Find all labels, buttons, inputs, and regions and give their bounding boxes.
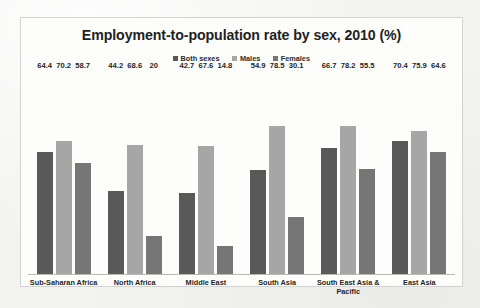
bar-males	[56, 141, 72, 274]
x-axis-label: South East Asia & Pacific	[313, 278, 383, 296]
bar-value-label: 55.5	[360, 61, 375, 70]
x-axis-label: North Africa	[100, 278, 170, 287]
bar-group: 42.7 67.6 14.8	[179, 72, 233, 274]
bar-value-label: 20	[150, 61, 158, 70]
bar-wrap: 70.4	[392, 72, 408, 274]
bar-males	[127, 145, 143, 275]
bar-males	[269, 126, 285, 274]
bar-wrap: 20	[146, 72, 162, 274]
bar-wrap: 30.1	[288, 72, 304, 274]
bar-wrap: 78.2	[340, 72, 356, 274]
bar-value-label: 75.9	[412, 61, 427, 70]
bar-males	[340, 126, 356, 274]
bar-value-label: 30.1	[289, 61, 304, 70]
bar-value-label: 68.6	[127, 61, 142, 70]
bar-value-label: 70.2	[56, 61, 71, 70]
bar-wrap: 58.7	[75, 72, 91, 274]
x-axis-labels: Sub-Saharan Africa North Africa Middle E…	[28, 278, 455, 296]
bar-wrap: 75.9	[411, 72, 427, 274]
bar-wrap: 14.8	[217, 72, 233, 274]
bar-females	[430, 152, 446, 274]
bar-wrap: 44.2	[108, 72, 124, 274]
bar-males	[198, 146, 214, 274]
chart-title: Employment-to-population rate by sex, 20…	[21, 27, 462, 43]
bar-wrap: 67.6	[198, 72, 214, 274]
bar-group: 70.4 75.9 64.6	[392, 72, 446, 274]
bar-wrap: 64.4	[37, 72, 53, 274]
bar-males	[411, 131, 427, 274]
x-axis-line	[28, 274, 455, 275]
bar-value-label: 70.4	[393, 61, 408, 70]
bar-value-label: 54.9	[251, 61, 266, 70]
bar-value-label: 78.5	[270, 61, 285, 70]
bar-wrap: 66.7	[321, 72, 337, 274]
bar-value-label: 64.6	[431, 61, 446, 70]
bar-group: 44.2 68.6 20	[108, 72, 162, 274]
x-axis-label: Sub-Saharan Africa	[29, 278, 99, 287]
bar-wrap: 42.7	[179, 72, 195, 274]
bar-females	[75, 163, 91, 274]
bar-value-label: 58.7	[75, 61, 90, 70]
bar-value-label: 42.7	[180, 61, 195, 70]
x-axis-label: Middle East	[171, 278, 241, 287]
bar-wrap: 78.5	[269, 72, 285, 274]
bar-both-sexes	[250, 170, 266, 274]
legend-swatch-males	[232, 56, 237, 61]
bar-value-label: 78.2	[341, 61, 356, 70]
bar-value-label: 64.4	[37, 61, 52, 70]
bar-wrap: 54.9	[250, 72, 266, 274]
bar-both-sexes	[37, 152, 53, 274]
legend-swatch-both-sexes	[173, 56, 178, 61]
bar-females	[359, 169, 375, 274]
x-axis-label: East Asia	[384, 278, 454, 287]
bar-wrap: 68.6	[127, 72, 143, 274]
bar-group: 64.4 70.2 58.7	[37, 72, 91, 274]
bar-both-sexes	[179, 193, 195, 274]
bar-wrap: 55.5	[359, 72, 375, 274]
plot-area: 64.4 70.2 58.7 44.2	[22, 72, 461, 285]
bar-wrap: 64.6	[430, 72, 446, 274]
bar-both-sexes	[392, 141, 408, 274]
bar-females	[146, 236, 162, 274]
chart-frame: Employment-to-population rate by sex, 20…	[20, 17, 463, 287]
chart-page: Employment-to-population rate by sex, 20…	[0, 0, 480, 308]
bar-both-sexes	[108, 191, 124, 275]
bar-value-label: 66.7	[322, 61, 337, 70]
bar-group: 54.9 78.5 30.1	[250, 72, 304, 274]
bar-value-label: 44.2	[108, 61, 123, 70]
bar-females	[288, 217, 304, 274]
bar-females	[217, 246, 233, 274]
bar-both-sexes	[321, 148, 337, 274]
bar-groups: 64.4 70.2 58.7 44.2	[28, 72, 455, 274]
bar-value-label: 14.8	[218, 61, 233, 70]
x-axis-label: South Asia	[242, 278, 312, 287]
bar-wrap: 70.2	[56, 72, 72, 274]
bar-group: 66.7 78.2 55.5	[321, 72, 375, 274]
bar-value-label: 67.6	[199, 61, 214, 70]
